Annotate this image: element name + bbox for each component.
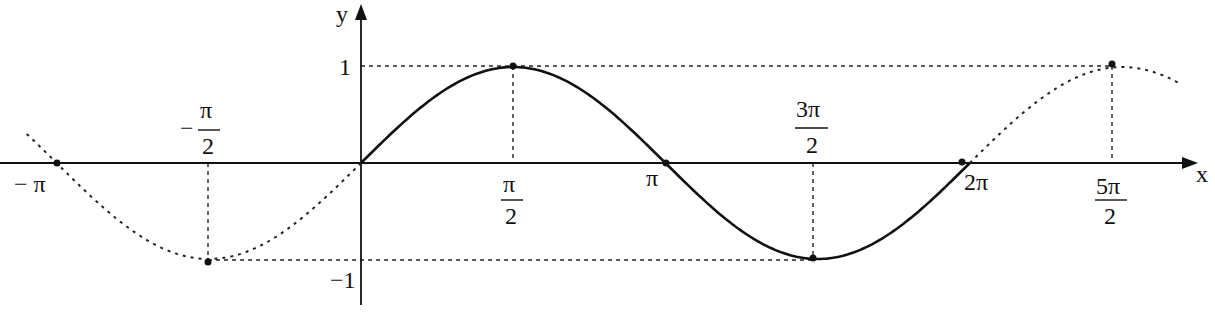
fraction-den: 2 bbox=[806, 132, 818, 158]
sine-dotted-left bbox=[27, 134, 361, 259]
fraction-num: 3π bbox=[796, 96, 820, 122]
point-half-pi bbox=[510, 63, 517, 70]
fraction-num: π bbox=[200, 97, 212, 123]
fraction-num: 5π bbox=[1096, 173, 1120, 199]
x-tick-pi: π bbox=[646, 165, 658, 191]
fraction-den: 2 bbox=[505, 203, 517, 229]
sine-dotted-right bbox=[970, 67, 1180, 163]
x-tick-half-pi: π 2 bbox=[501, 171, 523, 229]
axes bbox=[0, 14, 1188, 305]
neg-sign: − bbox=[180, 115, 194, 141]
fraction-num: π bbox=[503, 171, 515, 197]
sine-graph: y x 1 −1 − π − π 2 π 2 π 3π 2 2π 5π 2 bbox=[0, 0, 1215, 313]
x-tick-five-half-pi: 5π 2 bbox=[1095, 173, 1127, 229]
x-tick-two-pi: 2π bbox=[964, 169, 988, 195]
y-axis-arrow-icon bbox=[355, 4, 367, 20]
fraction-den: 2 bbox=[1104, 203, 1116, 229]
x-tick-three-half-pi: 3π 2 bbox=[795, 96, 828, 158]
x-tick-neg-half-pi: − π 2 bbox=[180, 97, 220, 159]
x-tick-neg-pi: − π bbox=[14, 171, 46, 197]
point-three-half-pi bbox=[810, 255, 817, 262]
y-tick-neg1: −1 bbox=[330, 267, 356, 293]
point-two-pi bbox=[959, 159, 966, 166]
point-neg-half-pi bbox=[205, 259, 212, 266]
x-axis-label: x bbox=[1196, 161, 1208, 187]
y-tick-1: 1 bbox=[339, 54, 351, 80]
fraction-den: 2 bbox=[202, 133, 214, 159]
point-pi bbox=[663, 160, 670, 167]
y-axis-label: y bbox=[336, 1, 348, 27]
point-neg-pi bbox=[54, 160, 61, 167]
point-five-half-pi bbox=[1109, 61, 1116, 68]
